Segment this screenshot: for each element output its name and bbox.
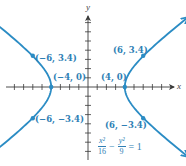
- equals-one: = 1: [129, 141, 142, 152]
- y-term-numerator: y²: [118, 137, 126, 147]
- point-label-pos4-0: (4, 0): [101, 73, 127, 82]
- point-label-pos6-pos3-4: (6, 3.4): [113, 46, 148, 55]
- point-marker: [123, 85, 127, 89]
- x-term-denominator: 16: [98, 147, 106, 156]
- point-label-neg4-0: (−4, 0): [53, 73, 86, 82]
- point-label-neg6-neg3-4: (−6, −3.4): [35, 115, 84, 124]
- minus-sign: −: [109, 141, 115, 152]
- point-label-neg6-pos3-4: (−6, 3.4): [35, 54, 77, 63]
- x-term-numerator: x²: [98, 137, 106, 147]
- point-label-pos6-neg3-4: (6, −3.4): [105, 121, 147, 130]
- point-marker: [49, 85, 53, 89]
- hyperbola-plot: [0, 0, 186, 166]
- x-axis-label: x: [177, 82, 181, 91]
- hyperbola-equation: x² 16 − y² 9 = 1: [98, 137, 142, 156]
- y-term-denominator: 9: [120, 147, 124, 156]
- y-term-fraction: y² 9: [118, 137, 126, 156]
- axes: [6, 16, 174, 160]
- y-axis-label: y: [86, 3, 90, 12]
- x-term-fraction: x² 16: [98, 137, 106, 156]
